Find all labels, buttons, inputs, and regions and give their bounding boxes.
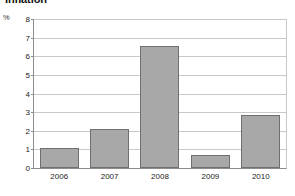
x-axis-tick-label: 2006 — [50, 172, 68, 181]
bar-group: 2010 — [236, 19, 286, 168]
bar-group: 2006 — [34, 19, 84, 168]
bar[interactable] — [140, 46, 179, 168]
x-axis-tick-label: 2008 — [151, 172, 169, 181]
x-axis-tick-label: 2007 — [101, 172, 119, 181]
y-axis-tick-label: 8 — [26, 15, 30, 24]
y-axis-tick-label: 5 — [26, 70, 30, 79]
bar-chart: Inflation % 012345678 200620072008200920… — [0, 0, 295, 196]
y-axis-unit-label: % — [3, 13, 10, 22]
y-axis-tick-label: 2 — [26, 126, 30, 135]
x-axis-tick-label: 2010 — [252, 172, 270, 181]
y-axis-tick-label: 1 — [26, 145, 30, 154]
y-axis-tick-label: 7 — [26, 33, 30, 42]
chart-title: Inflation — [5, 0, 47, 5]
bar-group: 2009 — [185, 19, 235, 168]
x-axis-tick-label: 2009 — [201, 172, 219, 181]
plot-area: 012345678 20062007200820092010 — [33, 19, 287, 169]
bar[interactable] — [40, 148, 79, 168]
y-axis-tick-label: 4 — [26, 89, 30, 98]
bar-group: 2008 — [135, 19, 185, 168]
bar[interactable] — [90, 129, 129, 168]
bar[interactable] — [191, 155, 230, 168]
y-axis-tick-label: 3 — [26, 108, 30, 117]
y-tick-mark — [31, 168, 34, 169]
bars-layer: 20062007200820092010 — [34, 19, 286, 168]
y-axis-tick-label: 0 — [26, 164, 30, 173]
y-axis-tick-label: 6 — [26, 52, 30, 61]
bar-group: 2007 — [84, 19, 134, 168]
bar[interactable] — [241, 115, 280, 168]
